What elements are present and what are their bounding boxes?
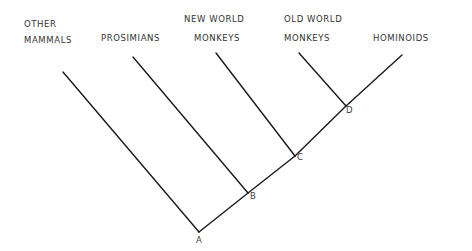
cladogram-branches xyxy=(0,0,472,251)
node-label-a: A xyxy=(196,235,202,245)
node-label-c: C xyxy=(297,152,303,162)
branch-c-new-world xyxy=(216,53,295,156)
branch-b-prosimians xyxy=(133,57,248,193)
branch-a-b xyxy=(199,193,248,232)
node-label-b: B xyxy=(250,191,256,201)
branch-d-old-world xyxy=(299,53,346,106)
branch-c-d xyxy=(295,106,346,156)
node-label-d: D xyxy=(346,105,353,115)
branch-a-other xyxy=(63,72,199,232)
branch-d-hominoids xyxy=(346,55,402,106)
branch-b-c xyxy=(248,156,295,193)
